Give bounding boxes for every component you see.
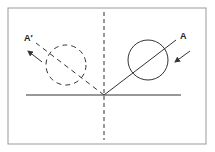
label-incoming: A: [180, 31, 187, 41]
label-reflected: A′: [24, 33, 33, 43]
outgoing-arrow: [28, 51, 42, 62]
incoming-ball: [128, 40, 168, 80]
diagram-canvas: [0, 0, 215, 152]
reflected-ball: [46, 45, 86, 85]
incident-path: [104, 40, 176, 95]
reflection-diagram: A A′: [0, 0, 215, 152]
incoming-arrow: [175, 51, 190, 62]
frame: [8, 8, 206, 144]
